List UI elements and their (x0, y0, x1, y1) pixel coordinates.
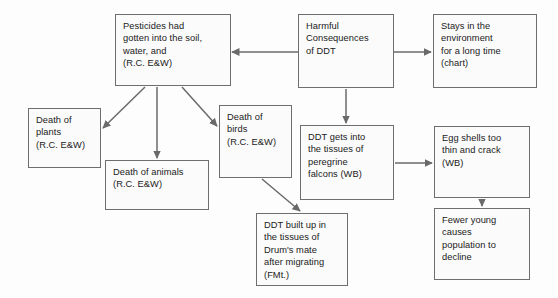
diagram-canvas: Pesticides had gotten into the soil, wat… (0, 0, 558, 298)
arrow-pesticides-to-birds (182, 87, 217, 126)
node-pesticides: Pesticides had gotten into the soil, wat… (115, 14, 231, 86)
node-ddt-falcons: DDT gets into the tissues of peregrine f… (300, 125, 394, 200)
arrow-birds-to-ddt-built-up (262, 179, 300, 211)
arrow-pesticides-to-plants (103, 87, 145, 128)
node-death-plants: Death of plants (R.C. E&W) (28, 108, 101, 168)
node-stays-environment: Stays in the environment for a long time… (433, 14, 537, 88)
node-fewer-young: Fewer young causes population to decline (434, 208, 530, 280)
node-death-birds: Death of birds (R.C. E&W) (219, 105, 292, 178)
node-ddt-built-up: DDT built up in the tissues of Drum's ma… (256, 213, 348, 286)
node-harmful-consequences: Harmful Consequences of DDT (298, 14, 394, 88)
node-egg-shells: Egg shells too thin and crack (WB) (434, 126, 530, 198)
node-death-animals: Death of animals (R.C. E&W) (105, 160, 209, 210)
